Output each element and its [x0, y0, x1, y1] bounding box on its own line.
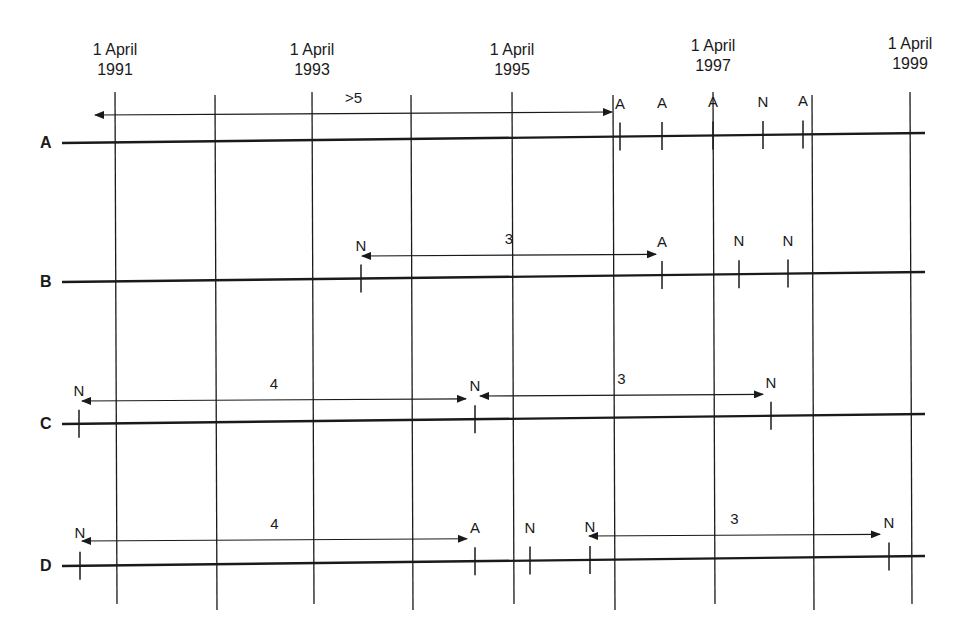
intermediate-gridline — [812, 95, 814, 610]
timeline-diagram — [0, 0, 962, 633]
year-gridline — [910, 92, 912, 604]
event-label-a: A — [652, 94, 672, 111]
event-label-n: N — [729, 232, 749, 249]
event-label-a: A — [465, 519, 485, 536]
year-label-year: 1997 — [668, 56, 758, 76]
event-label-n: N — [70, 524, 90, 541]
interval-arrow — [589, 534, 880, 536]
year-label-year: 1991 — [70, 60, 160, 80]
event-label-a: A — [703, 93, 723, 110]
year-label: 1 April1995 — [467, 40, 557, 80]
timeline-row-a — [62, 112, 925, 151]
event-label-n: N — [761, 374, 781, 391]
event-label-a: A — [652, 233, 672, 250]
interval-label: 3 — [489, 230, 529, 247]
timeline-row-b — [62, 254, 925, 292]
interval-label: >5 — [334, 89, 374, 106]
row-axis-line — [62, 272, 925, 282]
event-label-n: N — [778, 232, 798, 249]
interval-arrow — [480, 394, 763, 396]
year-label: 1 April1999 — [865, 34, 955, 74]
year-label-date: 1 April — [267, 40, 357, 60]
year-gridline — [512, 92, 514, 604]
year-gridline — [115, 92, 117, 604]
intermediate-gridline — [215, 95, 217, 610]
year-label-date: 1 April — [668, 36, 758, 56]
year-label-date: 1 April — [865, 34, 955, 54]
event-label-n: N — [753, 93, 773, 110]
event-label-n: N — [69, 382, 89, 399]
event-label-a: A — [610, 95, 630, 112]
year-gridline — [713, 92, 715, 604]
year-label: 1 April1997 — [668, 36, 758, 76]
row-label: C — [40, 415, 52, 433]
row-axis-line — [62, 414, 925, 424]
interval-arrow — [362, 254, 656, 256]
year-label-date: 1 April — [70, 40, 160, 60]
row-axis-line — [62, 133, 925, 143]
grid-lines — [115, 92, 912, 610]
timeline-row-d — [62, 534, 925, 579]
event-label-n: N — [879, 514, 899, 531]
interval-label: 3 — [602, 370, 642, 387]
event-label-n: N — [580, 518, 600, 535]
event-label-n: N — [520, 519, 540, 536]
year-label: 1 April1991 — [70, 40, 160, 80]
row-axis-line — [62, 556, 925, 566]
interval-label: 3 — [715, 510, 755, 527]
year-label-year: 1999 — [865, 54, 955, 74]
row-label: A — [40, 134, 52, 152]
timeline-row-c — [62, 394, 925, 437]
interval-label: 4 — [254, 375, 294, 392]
row-label: D — [40, 557, 52, 575]
interval-arrow — [95, 112, 612, 115]
intermediate-gridline — [411, 95, 413, 610]
row-label: B — [40, 273, 52, 291]
timeline-rows — [62, 112, 925, 580]
event-label-a: A — [793, 92, 813, 109]
year-gridline — [312, 92, 314, 604]
year-label-year: 1995 — [467, 60, 557, 80]
event-label-n: N — [351, 237, 371, 254]
year-label: 1 April1993 — [267, 40, 357, 80]
event-label-n: N — [465, 377, 485, 394]
year-label-date: 1 April — [467, 40, 557, 60]
interval-arrow — [82, 399, 466, 401]
year-label-year: 1993 — [267, 60, 357, 80]
interval-label: 4 — [255, 515, 295, 532]
interval-arrow — [82, 539, 467, 541]
intermediate-gridline — [613, 95, 615, 610]
